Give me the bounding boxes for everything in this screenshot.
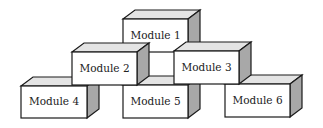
module-6-label: Module 6 — [232, 94, 282, 106]
module-3-block: Module 3 — [174, 42, 251, 84]
module-1-label: Module 1 — [130, 29, 180, 41]
module-5-label: Module 5 — [130, 95, 180, 107]
module-3-label: Module 3 — [181, 61, 231, 73]
module-2-block: Module 2 — [72, 43, 149, 85]
module-block-diagram: Module 5 Module 4 Module 6 Module 1 Modu… — [0, 0, 323, 128]
module-4-label: Module 4 — [29, 95, 79, 107]
module-2-label: Module 2 — [79, 62, 129, 74]
